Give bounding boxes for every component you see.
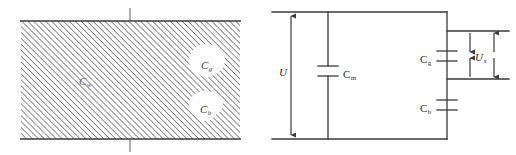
circuit-canvas	[258, 0, 516, 155]
label-cg-sub: g	[428, 59, 432, 67]
label-c-w-base: C	[79, 75, 86, 87]
label-c-g-base: C	[201, 59, 208, 71]
figure-root: Cw Cg Cb	[0, 0, 516, 155]
label-cg-base: C	[420, 53, 427, 65]
label-c-b-sub: b	[208, 109, 212, 117]
label-c-w-sub: w	[87, 81, 92, 89]
hatched-region	[21, 21, 240, 139]
label-ux-sub: x	[483, 57, 486, 65]
label-cb-base: C	[420, 102, 427, 114]
right-diagram: U Cm Cg Cb Ux	[258, 0, 516, 155]
label-cm: Cm	[343, 65, 356, 82]
label-ux: Ux	[475, 48, 487, 65]
label-cb-sub: b	[428, 108, 432, 116]
label-u: U	[279, 63, 287, 80]
label-cm-base: C	[343, 68, 350, 80]
left-diagram: Cw Cg Cb	[0, 0, 258, 155]
label-c-w: Cw	[79, 72, 92, 89]
left-diagram-canvas	[0, 0, 258, 155]
label-c-b-base: C	[200, 103, 207, 115]
label-c-g-sub: g	[209, 65, 213, 73]
label-u-base: U	[279, 66, 287, 78]
label-ux-base: U	[475, 51, 483, 63]
label-cg: Cg	[420, 50, 431, 67]
label-cb: Cb	[420, 99, 431, 116]
label-cm-sub: m	[351, 74, 356, 82]
